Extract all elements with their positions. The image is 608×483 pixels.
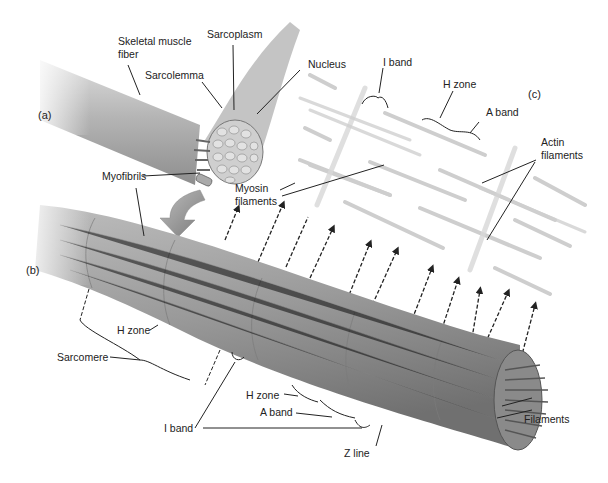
- curved-arrow-icon: [160, 190, 205, 237]
- label-sarcolemma: Sarcolemma: [145, 69, 204, 81]
- panel-label-b: (b): [26, 264, 39, 276]
- label-actin-filaments-1: Actin: [541, 136, 564, 148]
- label-sarcoplasm: Sarcoplasm: [207, 28, 262, 40]
- label-skeletal-muscle-fiber-1: Skeletal muscle: [118, 35, 192, 47]
- muscle-structure-diagram: (a) (b) (c) Skeletal muscle fiber Sarcop…: [0, 0, 608, 483]
- panel-label-a: (a): [38, 109, 51, 121]
- label-a-band-top: A band: [486, 106, 519, 118]
- label-nucleus: Nucleus: [308, 58, 346, 70]
- label-i-band-top: I band: [383, 56, 412, 68]
- label-z-line: Z line: [344, 447, 370, 459]
- label-actin-filaments-2: filaments: [541, 149, 583, 161]
- label-h-zone-left: H zone: [117, 324, 150, 336]
- label-sarcomere: Sarcomere: [57, 351, 108, 363]
- label-i-band-bottom: I band: [164, 422, 193, 434]
- label-filaments: Filaments: [524, 413, 570, 425]
- panel-label-c: (c): [528, 88, 541, 100]
- label-myosin-filaments-2: filaments: [235, 195, 277, 207]
- label-myofibrils: Myofibrils: [102, 170, 146, 182]
- label-myosin-filaments-1: Myosin: [235, 182, 268, 194]
- diagram-artwork: [0, 0, 608, 483]
- label-skeletal-muscle-fiber-2: fiber: [118, 48, 138, 60]
- sarcomere-filament-lattice: [300, 75, 585, 294]
- label-h-zone-bottom: H zone: [246, 389, 279, 401]
- label-h-zone-top: H zone: [443, 78, 476, 90]
- label-a-band-bottom: A band: [260, 406, 293, 418]
